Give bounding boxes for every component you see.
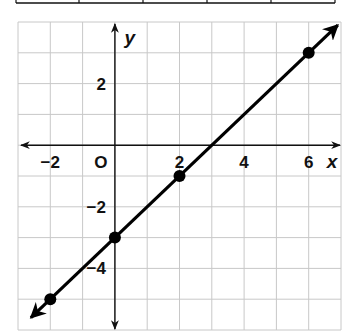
x-tick-label: 6 <box>304 153 313 172</box>
graphed-line <box>31 25 338 318</box>
table-fragment <box>16 0 335 3</box>
x-tick-label: −2 <box>41 153 60 172</box>
y-tick-label: 2 <box>96 75 105 94</box>
x-tick-label: 2 <box>175 153 184 172</box>
y-tick-label: −2 <box>87 198 106 217</box>
x-axis-label: x <box>326 151 339 172</box>
data-point <box>174 170 186 182</box>
data-point <box>109 232 121 244</box>
x-tick-label: 4 <box>239 153 249 172</box>
y-axis-label: y <box>124 27 137 48</box>
data-point <box>44 293 56 305</box>
coordinate-plane: −2O2462−2−4xy <box>0 0 352 336</box>
data-point <box>303 47 315 59</box>
origin-label: O <box>94 153 107 172</box>
data-line <box>31 25 338 318</box>
